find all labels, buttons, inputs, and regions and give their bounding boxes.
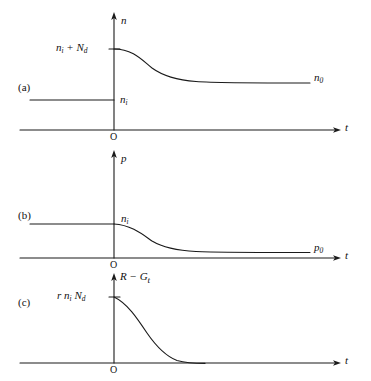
panel-a-x-axis: [20, 127, 341, 133]
panel-b-start-base: n: [121, 212, 127, 224]
panel-a-asymptote-base: n: [314, 71, 320, 83]
panel-a-start-base: n: [56, 41, 62, 53]
panel-b-curve: [114, 224, 310, 253]
panel-a-baseline-base: n: [120, 93, 126, 105]
panel-c-start-label: r ni Nd: [57, 290, 85, 301]
panel-label-c: (c): [18, 296, 30, 308]
panel-a-start-tail: + N: [64, 41, 84, 53]
panel-b-origin-label: O: [110, 259, 117, 270]
panel-b-asymptote-sub: 0: [320, 246, 324, 255]
panel-b-y-axis-label: p: [121, 152, 127, 164]
panel-c-y-axis-sub: t: [148, 275, 151, 285]
panel-c-start-suffix: N: [72, 289, 82, 301]
panel-a-asymptote-label: n0: [314, 72, 323, 83]
panel-label-a: (a): [18, 81, 30, 93]
panel-c-start-prefix: r n: [57, 289, 70, 301]
panel-a-asymptote-sub: 0: [320, 76, 324, 85]
panel-a-baseline-sub: i: [126, 98, 128, 107]
panel-b-x-axis-label: t: [345, 249, 348, 261]
panel-b-asymptote-label: p0: [314, 242, 323, 253]
panel-a-y-axis: [111, 12, 117, 130]
panel-c-start-suffix-sub: d: [82, 294, 86, 303]
panel-a-y-axis-label: n: [121, 14, 127, 26]
panel-b-start-sub: i: [127, 217, 129, 226]
panel-a-baseline-label: ni: [120, 94, 128, 105]
panel-c-y-axis-label: R − Gt: [120, 270, 150, 285]
panel-label-b: (b): [18, 209, 31, 221]
panel-b-start-label: ni: [121, 213, 129, 224]
panel-c-origin-label: O: [110, 364, 117, 375]
panel-c-curve: [114, 297, 205, 363]
panel-c-y-axis: [111, 273, 117, 363]
panel-c-start-prefix-sub: i: [70, 294, 72, 303]
panel-a-origin-label: O: [110, 131, 117, 142]
panel-a-start-label: ni + Nd: [56, 42, 88, 53]
panel-b-asymptote-base: p: [314, 241, 320, 253]
panel-a-x-axis-label: t: [345, 121, 348, 133]
panel-b-x-axis: [20, 255, 341, 261]
panel-b-y-axis: [111, 150, 117, 258]
figure-drawing: [0, 0, 371, 381]
panel-a-curve: [114, 49, 310, 83]
figure-container: (a) n t ni + Nd ni n0 O (b) p t ni p0 O …: [0, 0, 371, 381]
panel-c-y-axis-base: R − G: [120, 270, 148, 282]
panel-c-x-axis-label: t: [345, 354, 348, 366]
panel-a-start-tail-sub: d: [84, 46, 88, 55]
panel-a-start-base-sub: i: [62, 46, 64, 55]
